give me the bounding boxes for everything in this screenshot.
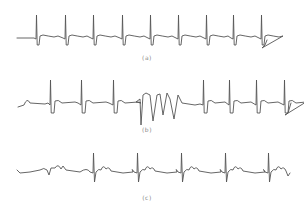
ecg-trace-b xyxy=(18,80,304,125)
ecg-trace-c xyxy=(17,153,290,182)
caption-c: (c) xyxy=(142,194,151,201)
ecg-trace-a xyxy=(17,15,283,48)
caption-a: (a) xyxy=(142,54,152,61)
caption-b: (b) xyxy=(142,126,152,133)
ecg-figure xyxy=(0,0,304,206)
